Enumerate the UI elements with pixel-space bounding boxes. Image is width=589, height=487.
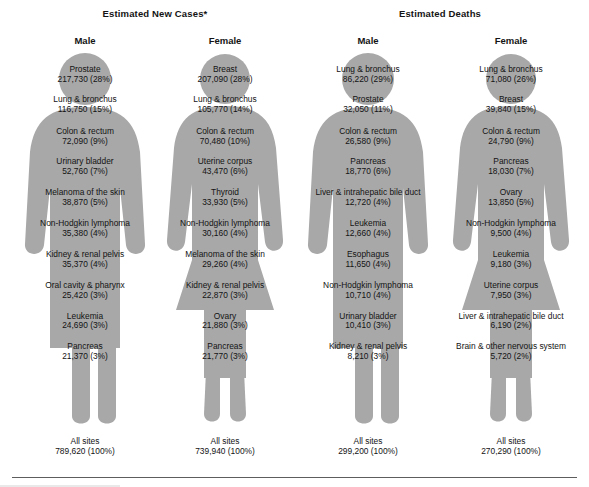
stat-value: 217,730 (28%) — [8, 75, 162, 85]
stat-value: 21,880 (3%) — [148, 321, 302, 331]
stat-rows: Lung & bronchus86,220 (29%) Prostate32,0… — [291, 48, 445, 362]
total-label: All sites — [8, 436, 162, 446]
stat-value: 11,650 (4%) — [291, 260, 445, 270]
stat-value: 10,410 (3%) — [291, 321, 445, 331]
column-male-new-cases: Prostate217,730 (28%) Lung & bronchus116… — [12, 48, 158, 487]
total-label: All sites — [434, 436, 588, 446]
sex-title-male-deaths: Male — [295, 35, 441, 46]
stat-row: Leukemia12,660 (4%) — [291, 208, 445, 239]
stat-row: Pancreas18,770 (6%) — [291, 146, 445, 177]
stat-value: 9,500 (4%) — [434, 229, 588, 239]
total-value: 299,200 (100%) — [291, 446, 445, 456]
stat-rows: Prostate217,730 (28%) Lung & bronchus116… — [8, 48, 162, 362]
stat-row: Uterine corpus7,950 (3%) — [434, 270, 588, 301]
column-female-deaths: Lung & bronchus71,080 (26%) Breast39,840… — [438, 48, 584, 487]
stat-value: 33,930 (5%) — [148, 198, 302, 208]
stat-value: 12,660 (4%) — [291, 229, 445, 239]
stat-row: Pancreas18,030 (7%) — [434, 146, 588, 177]
stat-row: Urinary bladder10,410 (3%) — [291, 301, 445, 332]
stat-rows: Lung & bronchus71,080 (26%) Breast39,840… — [434, 48, 588, 362]
total-label: All sites — [291, 436, 445, 446]
stat-value: 7,950 (3%) — [434, 291, 588, 301]
stat-row: Leukemia9,180 (3%) — [434, 239, 588, 270]
stat-value: 105,770 (14%) — [148, 105, 302, 115]
total-block: All sites 789,620 (100%) — [8, 436, 162, 456]
stat-row: Colon & rectum26,580 (9%) — [291, 115, 445, 147]
stat-value: 18,030 (7%) — [434, 167, 588, 177]
stat-value: 22,870 (3%) — [148, 291, 302, 301]
stat-value: 18,770 (6%) — [291, 167, 445, 177]
stat-value: 30,160 (4%) — [148, 229, 302, 239]
stat-value: 24,790 (9%) — [434, 137, 588, 147]
stat-row: Colon & rectum24,790 (9%) — [434, 115, 588, 147]
stat-value: 12,720 (4%) — [291, 198, 445, 208]
infographic-canvas: Estimated New Cases* Estimated Deaths Ma… — [0, 0, 589, 487]
stat-row: Lung & bronchus116,750 (15%) — [8, 85, 162, 115]
group-title-deaths: Estimated Deaths — [300, 8, 580, 19]
stat-value: 29,260 (4%) — [148, 260, 302, 270]
stat-row: Leukemia24,690 (3%) — [8, 301, 162, 332]
group-title-new-cases: Estimated New Cases* — [20, 8, 290, 19]
stat-value: 21,370 (3%) — [8, 352, 162, 362]
stat-row: Kidney & renal pelvis22,870 (3%) — [148, 270, 302, 301]
stat-row: Breast207,090 (28%) — [148, 48, 302, 85]
total-value: 270,290 (100%) — [434, 446, 588, 456]
stat-value: 72,090 (9%) — [8, 137, 162, 147]
stat-row: Lung & bronchus86,220 (29%) — [291, 48, 445, 85]
column-male-deaths: Lung & bronchus86,220 (29%) Prostate32,0… — [295, 48, 441, 487]
stat-row: Brain & other nervous system5,720 (2%) — [434, 331, 588, 362]
stat-value: 52,760 (7%) — [8, 167, 162, 177]
total-value: 789,620 (100%) — [8, 446, 162, 456]
stat-row: Liver & intrahepatic bile duct12,720 (4%… — [291, 177, 445, 208]
total-block: All sites 739,940 (100%) — [148, 436, 302, 456]
stat-row: Prostate32,050 (11%) — [291, 85, 445, 115]
stat-value: 86,220 (29%) — [291, 75, 445, 85]
stat-row: Pancreas21,770 (3%) — [148, 331, 302, 362]
stat-value: 35,370 (4%) — [8, 260, 162, 270]
sex-title-male-cases: Male — [12, 35, 158, 46]
stat-value: 70,480 (10%) — [148, 137, 302, 147]
stat-row: Colon & rectum72,090 (9%) — [8, 115, 162, 147]
stat-value: 43,470 (6%) — [148, 167, 302, 177]
stat-row: Kidney & renal pelvis35,370 (4%) — [8, 239, 162, 270]
column-female-new-cases: Breast207,090 (28%) Lung & bronchus105,7… — [152, 48, 298, 487]
stat-row: Non-Hodgkin lymphoma9,500 (4%) — [434, 208, 588, 239]
sex-title-female-deaths: Female — [438, 35, 584, 46]
stat-value: 10,710 (4%) — [291, 291, 445, 301]
stat-value: 5,720 (2%) — [434, 352, 588, 362]
stat-row: Lung & bronchus71,080 (26%) — [434, 48, 588, 85]
stat-row: Prostate217,730 (28%) — [8, 48, 162, 85]
stat-value: 38,870 (5%) — [8, 198, 162, 208]
stat-value: 35,380 (4%) — [8, 229, 162, 239]
stat-value: 116,750 (15%) — [8, 105, 162, 115]
stat-value: 207,090 (28%) — [148, 75, 302, 85]
stat-value: 6,190 (2%) — [434, 321, 588, 331]
stat-row: Uterine corpus43,470 (6%) — [148, 146, 302, 177]
total-value: 739,940 (100%) — [148, 446, 302, 456]
stat-value: 71,080 (26%) — [434, 75, 588, 85]
total-label: All sites — [148, 436, 302, 446]
stat-row: Ovary21,880 (3%) — [148, 301, 302, 332]
stat-row: Non-Hodgkin lymphoma30,160 (4%) — [148, 208, 302, 239]
total-block: All sites 270,290 (100%) — [434, 436, 588, 456]
stat-row: Esophagus11,650 (4%) — [291, 239, 445, 270]
stat-value: 25,420 (3%) — [8, 291, 162, 301]
stat-row: Liver & intrahepatic bile duct6,190 (2%) — [434, 301, 588, 332]
footer-divider — [12, 477, 577, 478]
stat-value: 21,770 (3%) — [148, 352, 302, 362]
stat-row: Melanoma of the skin38,870 (5%) — [8, 177, 162, 208]
stat-row: Colon & rectum70,480 (10%) — [148, 115, 302, 147]
stat-row: Ovary13,850 (5%) — [434, 177, 588, 208]
stat-row: Urinary bladder52,760 (7%) — [8, 146, 162, 177]
stat-row: Oral cavity & pharynx25,420 (3%) — [8, 270, 162, 301]
total-block: All sites 299,200 (100%) — [291, 436, 445, 456]
sex-title-female-cases: Female — [152, 35, 298, 46]
stat-row: Thyroid33,930 (5%) — [148, 177, 302, 208]
stat-value: 9,180 (3%) — [434, 260, 588, 270]
stat-value: 26,580 (9%) — [291, 137, 445, 147]
stat-value: 39,840 (15%) — [434, 105, 588, 115]
stat-value: 32,050 (11%) — [291, 105, 445, 115]
stat-rows: Breast207,090 (28%) Lung & bronchus105,7… — [148, 48, 302, 362]
stat-row: Melanoma of the skin29,260 (4%) — [148, 239, 302, 270]
stat-row: Kidney & renal pelvis8,210 (3%) — [291, 331, 445, 362]
